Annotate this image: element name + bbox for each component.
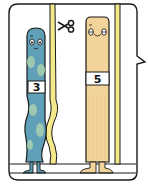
right-pole [115, 4, 120, 164]
number-tag-3: 3 [28, 81, 45, 94]
tag-number: 5 [94, 73, 102, 86]
comic-panel: 3 5 [0, 0, 148, 187]
tag-number: 3 [33, 81, 41, 94]
number-tag-5: 5 [86, 72, 109, 86]
